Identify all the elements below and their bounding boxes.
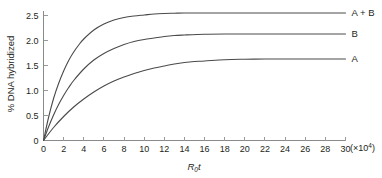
series-label-a: A (352, 53, 359, 64)
x-tick-label: 24 (280, 144, 290, 154)
x-tick-marks (44, 137, 346, 141)
y-axis-title-text: % DNA hybridized (5, 36, 16, 113)
x-tick-label: 22 (260, 144, 270, 154)
curve-a (44, 59, 346, 141)
series-label-b: B (352, 28, 358, 39)
x-axis-group: 024681012141618202224262830 (41, 137, 351, 154)
y-axis-group: 00.51.01.52.02.5 (26, 11, 48, 146)
x-tick-label: 14 (179, 144, 189, 154)
x-tick-label: 8 (122, 144, 127, 154)
x-axis-title: R0t (187, 161, 201, 173)
x-multiplier-suffix: ) (372, 143, 375, 153)
x-tick-label: 16 (200, 144, 210, 154)
chart-svg: 00.51.01.52.02.5 02468101214161820222426… (0, 0, 382, 178)
curve-a-b (44, 13, 346, 141)
y-tick-label: 0.5 (26, 111, 39, 121)
x-axis-title-variable: t (198, 161, 201, 172)
dna-hybridization-chart: 00.51.01.52.02.5 02468101214161820222426… (0, 0, 382, 178)
x-tick-label: 0 (41, 144, 46, 154)
x-tick-label: 20 (240, 144, 250, 154)
x-tick-label: 18 (220, 144, 230, 154)
x-tick-label: 12 (159, 144, 169, 154)
series-labels: A + BBA (352, 7, 375, 64)
y-tick-label: 2.5 (26, 11, 39, 21)
y-tick-label: 2.0 (26, 36, 39, 46)
series-label-a-b: A + B (352, 7, 375, 18)
y-tick-label: 0 (33, 136, 38, 146)
y-tick-label: 1.0 (26, 86, 39, 96)
x-multiplier-prefix: (×10 (350, 143, 368, 153)
y-tick-labels: 00.51.01.52.02.5 (26, 11, 39, 146)
x-tick-label: 26 (300, 144, 310, 154)
y-tick-label: 1.5 (26, 61, 39, 71)
x-axis-title-text: R0t (187, 161, 201, 173)
x-tick-label: 4 (81, 144, 86, 154)
x-tick-label: 10 (139, 144, 149, 154)
x-tick-labels: 024681012141618202224262830 (41, 144, 351, 154)
x-axis-multiplier-note: (×104) (350, 142, 375, 154)
x-tick-label: 2 (61, 144, 66, 154)
x-multiplier-text: (×104) (350, 142, 375, 154)
x-tick-label: 30 (340, 144, 350, 154)
data-curves (44, 13, 346, 141)
x-tick-label: 28 (320, 144, 330, 154)
y-axis-title: % DNA hybridized (5, 36, 16, 113)
curve-b (44, 34, 346, 141)
y-tick-marks (44, 16, 48, 141)
x-tick-label: 6 (101, 144, 106, 154)
